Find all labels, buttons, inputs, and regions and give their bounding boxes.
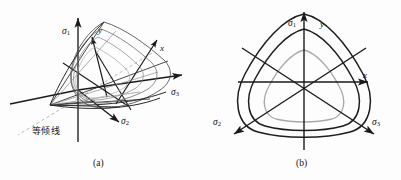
x-axis-label: x bbox=[363, 71, 367, 80]
y-axis-label: y bbox=[98, 26, 102, 35]
figure-root: σ1 σ2 σ3 y x 等倾线 (a) bbox=[0, 0, 401, 180]
figure-panel-b: σ1 σ2 σ3 y x (b) bbox=[200, 0, 401, 180]
sigma-1-axis-label: σ1 bbox=[288, 19, 296, 29]
yield-surface-cross-section-inner bbox=[76, 47, 130, 98]
sigma-2-axis-label: σ2 bbox=[121, 117, 129, 127]
sigma-3-axis-label: σ3 bbox=[372, 118, 380, 128]
negative-sigma-3-axis bbox=[10, 90, 78, 104]
x-axis-label: x bbox=[160, 44, 164, 53]
sigma-2-axis bbox=[234, 48, 366, 134]
hydrostatic-axis-label: 等倾线 bbox=[32, 127, 60, 136]
y-axis-label: y bbox=[320, 20, 324, 29]
panel-b-drawing bbox=[200, 0, 401, 180]
panel-a-caption: (a) bbox=[93, 158, 104, 168]
panel-b-caption: (b) bbox=[296, 158, 307, 168]
sigma-2-axis-label: σ2 bbox=[213, 118, 221, 128]
figure-panel-a: σ1 σ2 σ3 y x 等倾线 (a) bbox=[0, 0, 200, 180]
cone-lower-edge bbox=[50, 92, 166, 108]
sigma-3-axis-label: σ3 bbox=[171, 88, 179, 98]
sigma-1-axis-label: σ1 bbox=[62, 27, 70, 37]
sigma-3-axis bbox=[242, 48, 374, 134]
